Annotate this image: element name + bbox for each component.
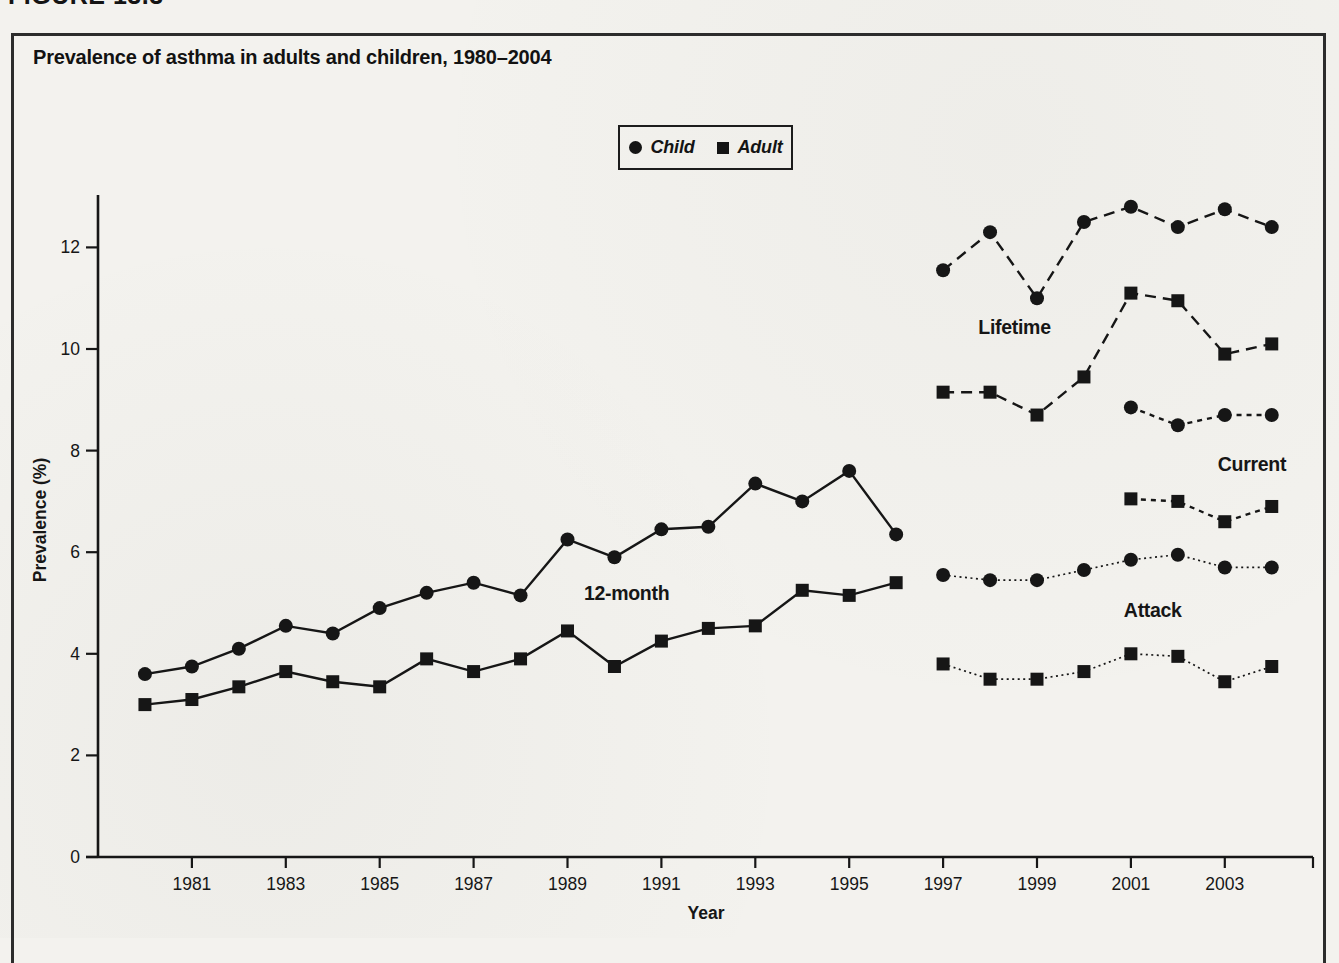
data-point-square (702, 622, 715, 635)
data-point-circle (936, 568, 950, 582)
series-current-child (1124, 400, 1279, 432)
x-tick-label: 1981 (172, 874, 211, 894)
data-point-square (984, 386, 997, 399)
x-tick-label: 1989 (548, 874, 587, 894)
x-tick-label: 1991 (642, 874, 681, 894)
data-point-circle (1218, 560, 1232, 574)
x-tick-label: 1985 (360, 874, 399, 894)
data-point-square (1171, 650, 1184, 663)
annotation-lifetime: Lifetime (978, 316, 1051, 338)
data-point-circle (1077, 563, 1091, 577)
data-point-square (937, 386, 950, 399)
x-tick-label: 1987 (454, 874, 493, 894)
data-point-circle (607, 550, 621, 564)
data-point-square (185, 693, 198, 706)
data-point-circle (232, 642, 246, 656)
data-point-square (749, 619, 762, 632)
x-tick-label: 1993 (736, 874, 775, 894)
data-point-square (1171, 495, 1184, 508)
data-point-circle (1171, 220, 1185, 234)
data-point-square (890, 576, 903, 589)
data-point-circle (279, 619, 293, 633)
data-point-circle (1218, 408, 1232, 422)
data-point-circle (1030, 291, 1044, 305)
data-point-circle (1124, 400, 1138, 414)
data-point-circle (983, 573, 997, 587)
data-point-circle (467, 576, 481, 590)
data-point-square (326, 675, 339, 688)
data-point-circle (983, 225, 997, 239)
series-current-adult (1124, 492, 1278, 528)
data-point-square (1124, 492, 1137, 505)
data-point-circle (1077, 215, 1091, 229)
x-tick-label: 1999 (1018, 874, 1057, 894)
data-point-circle (654, 522, 668, 536)
data-point-square (138, 698, 151, 711)
series-attack-child (936, 548, 1279, 587)
x-tick-label: 1997 (924, 874, 963, 894)
data-point-square (1218, 515, 1231, 528)
data-point-square (1124, 647, 1137, 660)
data-point-square (514, 652, 527, 665)
y-tick-label: 6 (70, 542, 80, 562)
y-tick-label: 10 (61, 339, 81, 359)
annotation-12-month: 12-month (584, 582, 669, 604)
y-tick-label: 8 (70, 441, 80, 461)
data-point-square (937, 657, 950, 670)
data-point-square (420, 652, 433, 665)
x-tick-label: 2003 (1205, 874, 1244, 894)
data-point-square (655, 635, 668, 648)
data-point-circle (1171, 548, 1185, 562)
annotation-current: Current (1218, 453, 1287, 475)
data-point-circle (1265, 408, 1279, 422)
data-point-circle (889, 527, 903, 541)
data-point-square (1218, 675, 1231, 688)
y-tick-label: 0 (70, 847, 80, 867)
data-point-circle (1171, 418, 1185, 432)
data-point-square (1031, 409, 1044, 422)
data-point-square (1265, 660, 1278, 673)
data-point-circle (1124, 553, 1138, 567)
data-point-square (467, 665, 480, 678)
y-axis-title: Prevalence (%) (30, 458, 50, 583)
x-axis-title: Year (688, 903, 725, 923)
data-point-circle (514, 588, 528, 602)
y-tick-label: 12 (61, 237, 80, 257)
series-lifetime-adult (937, 287, 1279, 422)
series-line (1131, 407, 1272, 425)
data-point-circle (561, 533, 575, 547)
data-point-circle (1265, 220, 1279, 234)
x-tick-label: 1995 (830, 874, 869, 894)
x-tick-label: 1983 (266, 874, 305, 894)
data-point-square (279, 665, 292, 678)
data-point-circle (185, 660, 199, 674)
data-point-circle (1124, 200, 1138, 214)
data-point-square (1218, 348, 1231, 361)
series-line (1131, 499, 1272, 522)
data-point-circle (795, 494, 809, 508)
series-line (145, 471, 896, 674)
data-point-circle (1218, 202, 1232, 216)
data-point-square (1077, 665, 1090, 678)
data-point-square (608, 660, 621, 673)
data-point-square (1171, 294, 1184, 307)
data-point-square (1265, 337, 1278, 350)
series-12-month-child (138, 464, 903, 681)
data-point-square (561, 624, 574, 637)
data-point-circle (420, 586, 434, 600)
data-point-circle (1030, 573, 1044, 587)
data-point-square (232, 680, 245, 693)
data-point-square (796, 584, 809, 597)
y-tick-label: 2 (70, 745, 80, 765)
data-point-circle (138, 667, 152, 681)
data-point-circle (373, 601, 387, 615)
data-point-circle (326, 626, 340, 640)
series-line (943, 207, 1272, 298)
data-point-square (1077, 370, 1090, 383)
annotation-attack: Attack (1124, 599, 1182, 621)
data-point-circle (701, 520, 715, 534)
data-point-circle (936, 263, 950, 277)
